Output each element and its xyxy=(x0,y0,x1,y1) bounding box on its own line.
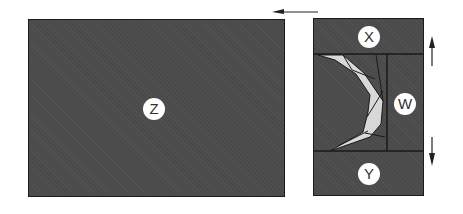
region-x-label: X xyxy=(358,26,380,48)
arrow-left-icon xyxy=(272,9,318,14)
region-y-label: Y xyxy=(358,163,380,185)
region-w-label: W xyxy=(394,93,416,115)
arrow-down-icon xyxy=(429,137,435,166)
arrow-up-icon xyxy=(429,36,435,66)
crescent-shape xyxy=(318,55,385,151)
